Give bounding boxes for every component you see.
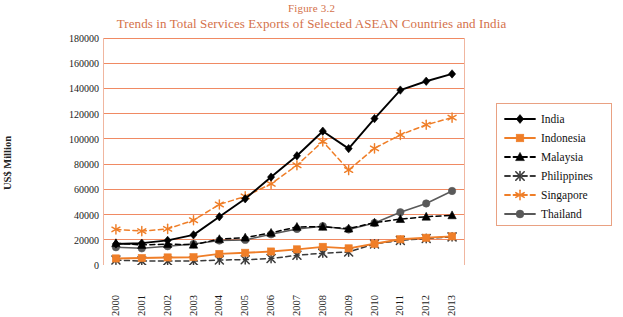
- data-point-square: [448, 233, 455, 240]
- x-tick-label: 2004: [213, 295, 224, 316]
- y-tick-label: 180000: [39, 33, 99, 44]
- y-tick-label: 40000: [39, 209, 99, 220]
- y-tick-label: 60000: [39, 184, 99, 195]
- x-tick-label: 2007: [291, 295, 302, 316]
- data-point-circle: [516, 210, 524, 218]
- x-tick-label: 2006: [265, 295, 276, 316]
- chart-figure: Figure 3.2 Trends in Total Services Expo…: [0, 0, 623, 317]
- chart-title: Trends in Total Services Exports of Sele…: [0, 16, 623, 32]
- legend-item-indonesia[interactable]: Indonesia: [503, 128, 607, 147]
- x-tick-label: 2010: [369, 295, 380, 316]
- figure-label: Figure 3.2: [0, 2, 623, 14]
- legend-swatch-asterisk-icon: [503, 188, 537, 202]
- data-point-square: [112, 255, 119, 262]
- data-point-square: [319, 243, 326, 250]
- plot-area: [103, 38, 465, 265]
- data-point-square: [164, 254, 171, 261]
- legend-swatch-triangle-icon: [503, 150, 537, 164]
- legend-label: Thailand: [537, 208, 582, 220]
- legend-item-singapore[interactable]: Singapore: [503, 185, 607, 204]
- data-point-square: [345, 245, 352, 252]
- x-tick-label: 2003: [188, 295, 199, 316]
- chart-canvas: [103, 38, 465, 265]
- chart-legend: IndiaIndonesiaMalaysiaPhilippinesSingapo…: [496, 103, 612, 226]
- data-point-square: [138, 254, 145, 261]
- y-axis-tick-labels: 0200004000060000800001000001200001400001…: [36, 38, 99, 265]
- legend-swatch-diamond-icon: [503, 112, 537, 126]
- x-axis-tick-labels: 2000200120022003200420052006200720082009…: [103, 268, 465, 316]
- data-point-circle: [448, 187, 455, 194]
- legend-item-thailand[interactable]: Thailand: [503, 204, 607, 223]
- y-tick-label: 140000: [39, 83, 99, 94]
- legend-swatch-square-icon: [503, 131, 537, 145]
- legend-label: Philippines: [537, 170, 593, 182]
- x-tick-label: 2009: [343, 295, 354, 316]
- x-tick-label: 2008: [317, 295, 328, 316]
- x-tick-label: 2005: [239, 295, 250, 316]
- legend-label: Indonesia: [537, 132, 586, 144]
- y-tick-label: 0: [39, 260, 99, 271]
- x-tick-label: 2000: [110, 295, 121, 316]
- data-point-square: [371, 240, 378, 247]
- figure-label-text: Figure 3.2: [288, 2, 335, 14]
- legend-swatch-cross-icon: [503, 169, 537, 183]
- data-point-square: [242, 249, 249, 256]
- data-point-diamond: [516, 114, 523, 123]
- y-axis-label: US$ Million: [2, 118, 18, 208]
- x-tick-label: 2002: [162, 295, 173, 316]
- data-point-square: [190, 254, 197, 261]
- y-tick-label: 20000: [39, 234, 99, 245]
- data-point-square: [397, 236, 404, 243]
- data-point-square: [216, 250, 223, 257]
- legend-label: India: [537, 113, 565, 125]
- legend-label: Singapore: [537, 189, 588, 201]
- data-point-square: [516, 134, 524, 142]
- y-tick-label: 80000: [39, 159, 99, 170]
- x-tick-label: 2013: [446, 295, 457, 316]
- data-point-square: [267, 248, 274, 255]
- legend-label: Malaysia: [537, 151, 583, 163]
- legend-item-malaysia[interactable]: Malaysia: [503, 147, 607, 166]
- data-point-circle: [423, 200, 430, 207]
- x-tick-label: 2001: [136, 295, 147, 316]
- legend-item-india[interactable]: India: [503, 109, 607, 128]
- y-tick-label: 160000: [39, 58, 99, 69]
- y-tick-label: 120000: [39, 108, 99, 119]
- data-point-square: [293, 246, 300, 253]
- legend-item-philippines[interactable]: Philippines: [503, 166, 607, 185]
- x-tick-label: 2012: [420, 295, 431, 316]
- data-point-square: [423, 234, 430, 241]
- y-tick-label: 100000: [39, 133, 99, 144]
- x-tick-label: 2011: [394, 295, 405, 316]
- legend-swatch-circle-icon: [503, 207, 537, 221]
